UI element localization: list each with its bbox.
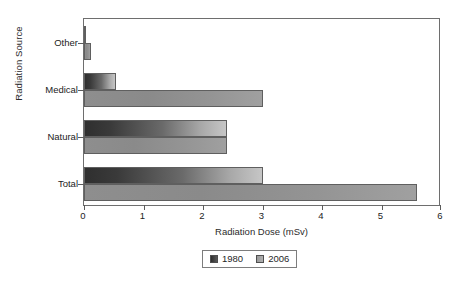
bar-medical-1980 [84, 73, 116, 90]
legend-swatch-2006-icon [256, 255, 264, 263]
x-axis-tick-label: 5 [366, 210, 396, 221]
x-axis-tick-label: 4 [306, 210, 336, 221]
bar-other-2006 [84, 43, 91, 60]
y-axis-tick-label-medical: Medical [8, 83, 78, 94]
bar-natural-1980 [84, 120, 227, 137]
x-axis-title: Radiation Dose (mSv) [83, 226, 440, 237]
figure: Radiation Source OtherMedicalNaturalTota… [0, 0, 461, 285]
y-axis-tick [78, 90, 84, 91]
bar-medical-2006 [84, 90, 263, 107]
x-axis-tick-label: 2 [187, 210, 217, 221]
legend: 1980 2006 [202, 250, 297, 268]
bar-total-1980 [84, 167, 263, 184]
bar-other-1980 [84, 26, 86, 43]
legend-label-2006: 2006 [268, 253, 289, 264]
figure-caption [18, 272, 448, 284]
plot-area [83, 18, 440, 206]
y-axis-tick-label-other: Other [8, 36, 78, 47]
legend-swatch-1980-icon [210, 255, 218, 263]
plot-inner [84, 19, 439, 205]
y-axis-tick-label-total: Total [8, 177, 78, 188]
x-axis-tick-label: 1 [128, 210, 158, 221]
x-axis-tick-label: 6 [425, 210, 455, 221]
legend-label-1980: 1980 [222, 253, 243, 264]
y-axis-tick-labels: OtherMedicalNaturalTotal [8, 18, 78, 206]
legend-entry-1980[interactable]: 1980 [210, 253, 243, 264]
y-axis-tick [78, 137, 84, 138]
bar-natural-2006 [84, 137, 227, 154]
x-axis-tick-label: 0 [68, 210, 98, 221]
y-axis-tick-label-natural: Natural [8, 130, 78, 141]
legend-entry-2006[interactable]: 2006 [256, 253, 289, 264]
x-axis-tick-label: 3 [247, 210, 277, 221]
y-axis-tick [78, 43, 84, 44]
bar-total-2006 [84, 184, 417, 201]
y-axis-tick [78, 184, 84, 185]
